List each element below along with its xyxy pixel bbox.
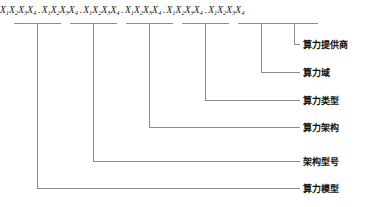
leader-line-provider xyxy=(295,24,301,45)
leader-line-type xyxy=(206,24,301,101)
diagram-canvas: X1X2X3X4.X1X2X3X4.X1X2X3X4.X1X2X3X4.X1X2… xyxy=(0,0,365,207)
leader-line-architecture xyxy=(150,24,301,128)
leader-line-arch-model xyxy=(94,24,301,162)
leader-line-model xyxy=(38,24,301,189)
label-arch-model: 架构型号 xyxy=(303,157,339,167)
label-type: 算力类型 xyxy=(303,96,339,106)
label-model: 算力模型 xyxy=(303,184,339,194)
label-provider: 算力提供商 xyxy=(303,40,348,50)
label-domain: 算力域 xyxy=(303,68,330,78)
label-architecture: 算力架构 xyxy=(303,123,339,133)
